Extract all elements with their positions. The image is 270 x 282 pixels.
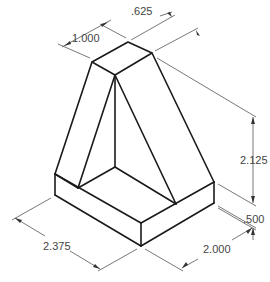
arrow-head-icon: [246, 228, 252, 234]
base-back-left: [55, 174, 78, 188]
arrow-head-icon: [196, 30, 200, 36]
isometric-drawing: 1.000 .625 2.125 .500 2.375: [0, 0, 270, 282]
dim-label-base-thickness: .500: [243, 213, 264, 225]
base-bottom-left-edge: [55, 195, 141, 246]
dimension-height: 2.125: [157, 58, 268, 203]
arrow-head-icon: [64, 41, 71, 46]
object-outline: [55, 42, 214, 246]
dim-label-base-length: 2.375: [43, 240, 71, 252]
dim-label-top-depth: .625: [131, 5, 152, 17]
top-face: [92, 42, 152, 75]
dim-label-top-width: 1.000: [72, 32, 100, 44]
right-slope-edge: [152, 53, 214, 182]
arrow-head-icon: [251, 196, 255, 203]
arrow-head-icon: [15, 218, 22, 223]
left-slope-edge: [55, 62, 92, 174]
arrow-head-icon: [182, 262, 188, 268]
dimension-top-width: 1.000: [58, 20, 126, 58]
arrow-head-icon: [93, 264, 100, 269]
dimension-base-length: 2.375: [12, 198, 137, 271]
dim-label-height: 2.125: [240, 154, 268, 166]
base-top-right-edge: [141, 182, 214, 223]
dimension-base-depth: 2.000: [145, 208, 256, 271]
dimension-top-depth: .625: [131, 5, 200, 51]
base-bottom-right-edge: [141, 203, 214, 246]
dim-label-base-depth: 2.000: [203, 243, 231, 255]
arrow-head-icon: [251, 117, 255, 124]
arrow-head-icon: [167, 12, 172, 17]
